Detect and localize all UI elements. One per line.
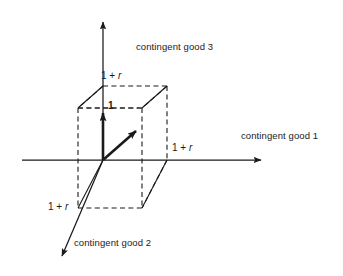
box-edge-depth-bottom-right-solid xyxy=(142,160,167,208)
budget-box xyxy=(78,86,167,208)
vector-label-unit: 1 xyxy=(108,101,114,111)
tick-label-good3: 1 + r xyxy=(101,71,121,81)
tick-label-good1: 1 + r xyxy=(172,143,192,153)
axis-label-good2: contingent good 2 xyxy=(74,238,151,248)
contingent-goods-diagram: contingent good 3 contingent good 1 cont… xyxy=(0,0,343,276)
vector-diagonal xyxy=(103,131,136,160)
box-edge-depth-bottom-left xyxy=(78,160,103,208)
tick-r-good1: r xyxy=(189,142,192,153)
box-edge-depth-top-left-solid xyxy=(78,86,103,108)
box-edge-depth-top-right-solid xyxy=(142,86,167,108)
tick-label-good2: 1 + r xyxy=(48,202,68,212)
axis-label-good3: contingent good 3 xyxy=(136,42,213,52)
box-solid-edges xyxy=(78,86,167,208)
tick-r-good3: r xyxy=(118,70,121,81)
axis-label-good1: contingent good 1 xyxy=(241,131,318,141)
tick-r-good2: r xyxy=(65,201,68,212)
